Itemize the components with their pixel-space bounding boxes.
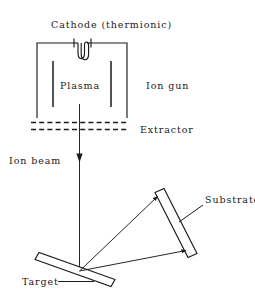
cathode-filament-icon xyxy=(74,39,91,60)
sputter-arrow-lower xyxy=(80,251,187,272)
ion-beam-sputtering-diagram: Cathode (thermionic) Plasma Ion gun Extr… xyxy=(0,0,255,304)
substrate-leader-line xyxy=(179,205,203,222)
plasma-label: Plasma xyxy=(60,80,100,91)
substrate-plate xyxy=(155,189,197,258)
ion-gun-label: Ion gun xyxy=(146,80,189,91)
sputter-arrow-upper xyxy=(80,197,158,272)
extractor-label: Extractor xyxy=(140,124,194,135)
substrate-label: Substrate xyxy=(205,194,255,205)
cathode-label: Cathode (thermionic) xyxy=(51,19,172,30)
target-label: Target xyxy=(22,276,59,287)
ion-beam-label: Ion beam xyxy=(9,155,61,166)
diagram-canvas: Cathode (thermionic) Plasma Ion gun Extr… xyxy=(0,0,255,304)
